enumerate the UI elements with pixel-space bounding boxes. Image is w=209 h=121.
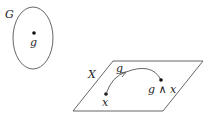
image-point-dot [159,78,163,82]
group-label: G [5,8,14,21]
action-label: g [116,62,123,75]
space-label: X [87,68,97,81]
point-x-label: x [102,96,109,109]
group-element-label: g [30,36,37,49]
group-action-diagram: G g X x g g ∧ x [0,0,209,121]
group-element-dot [32,31,36,35]
image-point-label: g ∧ x [148,83,177,96]
